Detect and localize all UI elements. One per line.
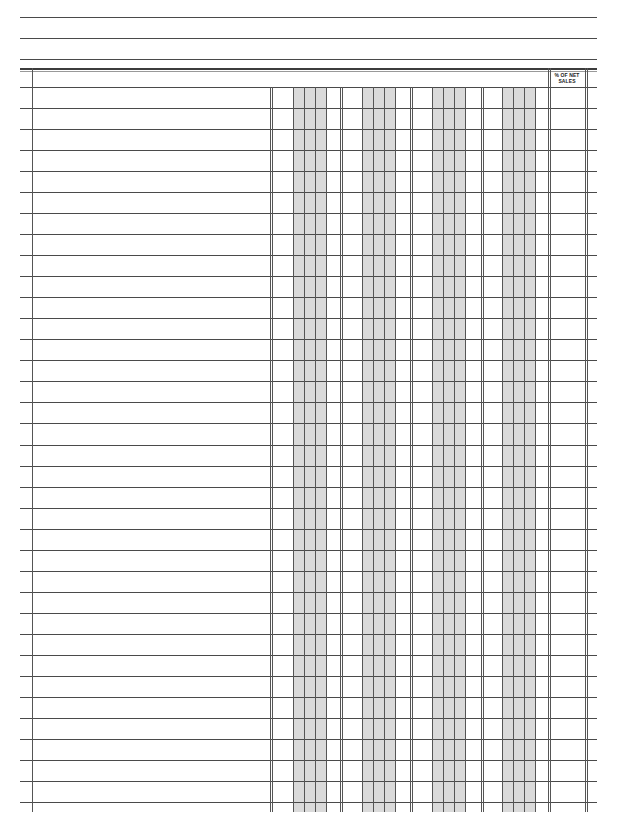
column-divider-double <box>272 87 273 812</box>
column-divider <box>395 87 396 812</box>
column-divider <box>293 87 294 812</box>
column-divider <box>304 87 305 812</box>
column-divider-double <box>483 87 484 812</box>
header-line-3 <box>20 59 597 60</box>
row-description-input[interactable] <box>34 277 268 296</box>
column-divider-double <box>412 87 413 812</box>
row-description-input[interactable] <box>34 572 268 591</box>
row-description-input[interactable] <box>34 446 268 465</box>
column-divider <box>315 87 316 812</box>
row-description-input[interactable] <box>34 88 268 107</box>
column-divider <box>432 87 433 812</box>
row-description-input[interactable] <box>34 761 268 780</box>
column-divider-double <box>270 87 271 812</box>
header-line-1 <box>20 17 597 18</box>
row-description-input[interactable] <box>34 551 268 570</box>
percent-column-left <box>548 68 549 812</box>
row-line <box>20 802 597 803</box>
row-description-input[interactable] <box>34 593 268 612</box>
money-column-shade-3 <box>432 87 465 812</box>
row-description-input[interactable] <box>34 614 268 633</box>
top-rule-inner <box>20 71 597 72</box>
row-description-input[interactable] <box>34 677 268 696</box>
column-divider <box>384 87 385 812</box>
money-column-shade-4 <box>502 87 535 812</box>
row-description-input[interactable] <box>34 698 268 717</box>
row-description-input[interactable] <box>34 488 268 507</box>
column-divider <box>326 87 327 812</box>
column-divider <box>443 87 444 812</box>
row-description-input[interactable] <box>34 340 268 359</box>
row-description-input[interactable] <box>34 382 268 401</box>
row-description-input[interactable] <box>34 424 268 443</box>
row-description-input[interactable] <box>34 509 268 528</box>
row-description-input[interactable] <box>34 361 268 380</box>
column-divider-double <box>481 87 482 812</box>
row-description-input[interactable] <box>34 235 268 254</box>
column-divider <box>454 87 455 812</box>
row-description-input[interactable] <box>34 298 268 317</box>
column-divider <box>465 87 466 812</box>
row-description-input[interactable] <box>34 467 268 486</box>
row-description-input[interactable] <box>34 656 268 675</box>
percent-column-right <box>585 68 586 812</box>
row-description-input[interactable] <box>34 151 268 170</box>
row-description-input[interactable] <box>34 193 268 212</box>
money-column-shade-1 <box>293 87 326 812</box>
header-line-2 <box>20 38 597 39</box>
row-description-input[interactable] <box>34 256 268 275</box>
row-description-input[interactable] <box>34 214 268 233</box>
row-description-input[interactable] <box>34 740 268 759</box>
row-description-input[interactable] <box>34 109 268 128</box>
row-description-input[interactable] <box>34 635 268 654</box>
column-divider-double <box>340 87 341 812</box>
top-rule <box>20 68 597 70</box>
column-divider-double <box>410 87 411 812</box>
row-description-input[interactable] <box>34 172 268 191</box>
percent-column-right <box>587 68 588 812</box>
column-divider <box>524 87 525 812</box>
row-description-input[interactable] <box>34 782 268 801</box>
money-column-shade-2 <box>362 87 395 812</box>
row-description-input[interactable] <box>34 319 268 338</box>
column-divider <box>502 87 503 812</box>
percent-header-line2: SALES <box>548 78 586 84</box>
row-description-input[interactable] <box>34 719 268 738</box>
column-divider <box>362 87 363 812</box>
column-divider <box>373 87 374 812</box>
column-divider <box>535 87 536 812</box>
percent-column-left <box>550 68 551 812</box>
column-divider <box>513 87 514 812</box>
percent-net-sales-header: % OF NET SALES <box>548 72 586 84</box>
row-description-input[interactable] <box>34 403 268 422</box>
left-margin-line <box>32 68 33 812</box>
row-description-input[interactable] <box>34 130 268 149</box>
column-divider-double <box>342 87 343 812</box>
row-description-input[interactable] <box>34 530 268 549</box>
